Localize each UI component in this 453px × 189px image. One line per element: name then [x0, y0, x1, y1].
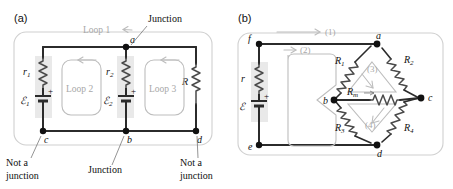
wire-d-to-r4: [382, 134, 391, 142]
label-r-right: R: [181, 76, 188, 87]
node-a-dot: [123, 44, 129, 50]
node-label-b: b: [127, 134, 132, 145]
node-label-c-b: c: [428, 92, 433, 103]
label-e-b: ℰ: [239, 101, 246, 112]
label-r4-b: R4: [403, 122, 414, 135]
node-f-dot: [256, 41, 262, 47]
label-r2-b: R2: [403, 54, 414, 67]
label-r-b: r: [241, 73, 245, 84]
node-a-dot-b: [374, 41, 381, 48]
node-e-dot: [256, 142, 262, 148]
label-r1: r1: [23, 66, 30, 79]
figure-container: (a) Loop 1 + r1 ℰ1 + r2 ℰ2 R Loop 2 Loop: [0, 0, 453, 189]
node-label-d: d: [197, 134, 203, 145]
label-rm: Rm: [346, 86, 358, 99]
battery-e-b-plus-sign: +: [264, 91, 269, 101]
loop-b3-label: (3): [367, 64, 378, 74]
wire-a-to-r2: [382, 48, 391, 59]
loop-b2-label: (2): [300, 45, 311, 55]
battery-e1-plus-sign: +: [48, 86, 53, 96]
wire-r3-to-d: [355, 136, 371, 143]
loop-b2-path: [288, 54, 336, 146]
node-label-a-b: a: [376, 30, 381, 41]
wire-r2-to-c: [404, 90, 419, 98]
callout-junction-b-text: Junction: [88, 164, 122, 175]
resistor-r-right: [192, 64, 200, 104]
loop-2-label: Loop 2: [66, 84, 93, 94]
callout-junction-a-text: Junction: [148, 13, 182, 24]
circuit-figure: (a) Loop 1 + r1 ℰ1 + r2 ℰ2 R Loop 2 Loop: [0, 0, 453, 189]
node-label-e: e: [248, 141, 253, 152]
label-e1: ℰ1: [20, 95, 30, 108]
node-label-f: f: [248, 33, 252, 44]
wire-rm-to-c: [400, 98, 419, 100]
node-label-c: c: [44, 134, 49, 145]
node-label-d-b: d: [377, 148, 383, 159]
wire-b-to-r1: [336, 93, 341, 98]
label-r2: r2: [106, 66, 114, 79]
panel-b-letter: (b): [238, 12, 251, 24]
loop-3-label: Loop 3: [149, 84, 176, 94]
loop-b4-label: (4): [365, 120, 376, 130]
node-label-b-b: b: [323, 95, 328, 106]
battery-e2-plus-sign: +: [131, 86, 136, 96]
label-e2: ℰ2: [103, 95, 113, 108]
node-c-dot-b: [418, 95, 425, 102]
wire-b-to-r3: [336, 102, 341, 108]
callout-not-junction-c-line2: junction: [5, 170, 39, 181]
panel-a-letter: (a): [14, 12, 27, 24]
loop-1-label: Loop 1: [83, 25, 110, 35]
callout-not-junction-c-line1: Not a: [6, 157, 29, 168]
node-b-dot-b: [331, 97, 338, 104]
wire-r1-to-a: [355, 46, 371, 62]
callout-not-junction-d-line1: Not a: [180, 157, 203, 168]
loop-b1-label: (1): [325, 27, 336, 37]
callout-junction-b-leader: [112, 136, 124, 165]
callout-not-junction-c-leader: [31, 136, 41, 158]
callout-not-junction-d-line2: junction: [179, 170, 213, 181]
